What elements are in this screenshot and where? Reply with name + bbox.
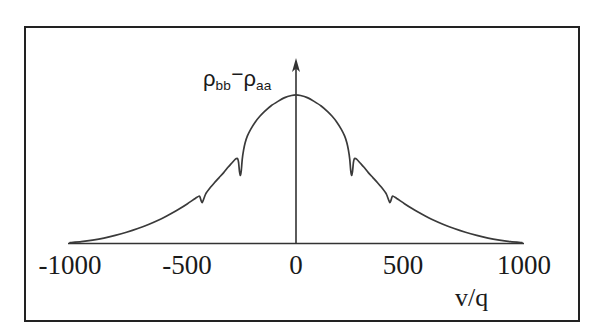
figure-container: -1000 -500 0 500 1000 v/q ρbb−ρaa: [0, 0, 601, 336]
xtick-label-zero: 0: [276, 252, 316, 279]
y-axis-minus-sign: −: [231, 62, 243, 85]
y-axis-subscript-aa: aa: [256, 78, 272, 93]
y-axis-rho-aa-symbol: ρ: [243, 66, 256, 91]
xtick-label-500: 500: [370, 252, 436, 279]
xtick-label-1000: 1000: [481, 252, 567, 279]
x-axis-title: v/q: [455, 285, 488, 311]
plot-canvas: [0, 0, 601, 336]
y-axis-rho-bb-symbol: ρ: [203, 66, 216, 91]
y-axis-subscript-bb: bb: [216, 78, 232, 93]
y-axis-title: ρbb−ρaa: [203, 68, 272, 90]
xtick-label-neg1000: -1000: [22, 252, 118, 279]
xtick-label-neg500: -500: [147, 252, 227, 279]
